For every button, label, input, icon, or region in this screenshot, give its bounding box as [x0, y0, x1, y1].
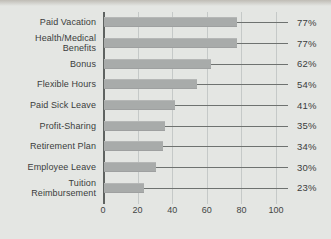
category-label: Paid Vacation: [0, 17, 103, 27]
bar-track: [103, 95, 293, 116]
value-label: 35%: [293, 120, 331, 131]
value-label: 77%: [293, 38, 331, 49]
x-tick-label: 40: [159, 205, 185, 215]
leader-line: [237, 43, 288, 44]
value-label: 23%: [293, 182, 331, 193]
chart-rows: Paid Vacation 77% Health/Medical Benefit…: [0, 12, 331, 198]
bar: [104, 162, 156, 172]
bar: [104, 141, 163, 151]
benefits-bar-chart: Paid Vacation 77% Health/Medical Benefit…: [0, 0, 331, 239]
bar-track: [103, 157, 293, 178]
bar-track: [103, 115, 293, 136]
leader-line: [211, 64, 288, 65]
leader-line: [237, 22, 288, 23]
bar: [104, 121, 165, 131]
leader-line: [144, 188, 288, 189]
bar: [104, 38, 237, 48]
chart-row: Profit-Sharing 35%: [0, 115, 331, 136]
value-label: 62%: [293, 58, 331, 69]
category-label: Flexible Hours: [0, 79, 103, 89]
bar-track: [103, 53, 293, 74]
x-tick-label: 0: [90, 205, 116, 215]
value-label: 34%: [293, 141, 331, 152]
category-label: Profit-Sharing: [0, 121, 103, 131]
x-tick-label: 100: [263, 205, 289, 215]
leader-line: [163, 146, 288, 147]
value-label: 41%: [293, 100, 331, 111]
bar-track: [103, 12, 293, 33]
chart-row: Tuition Reimbursement 23%: [0, 178, 331, 199]
value-label: 77%: [293, 17, 331, 28]
x-tick-label: 80: [228, 205, 254, 215]
category-label: Retirement Plan: [0, 141, 103, 151]
bar-track: [103, 178, 293, 199]
x-tick-label: 60: [194, 205, 220, 215]
category-label: Bonus: [0, 59, 103, 69]
leader-line: [197, 84, 288, 85]
bar-track: [103, 74, 293, 95]
scanned-chart-panel: Paid Vacation 77% Health/Medical Benefit…: [0, 0, 331, 239]
bar: [104, 59, 211, 69]
bar: [104, 183, 144, 193]
leader-line: [175, 105, 288, 106]
leader-line: [156, 167, 288, 168]
value-label: 30%: [293, 162, 331, 173]
chart-row: Bonus 62%: [0, 53, 331, 74]
category-label: Paid Sick Leave: [0, 100, 103, 110]
category-label: Health/Medical Benefits: [0, 33, 103, 53]
value-label: 54%: [293, 79, 331, 90]
leader-line: [165, 126, 288, 127]
chart-row: Employee Leave 30%: [0, 157, 331, 178]
chart-row: Paid Vacation 77%: [0, 12, 331, 33]
bar: [104, 79, 197, 89]
x-tick-label: 20: [125, 205, 151, 215]
category-label: Tuition Reimbursement: [0, 178, 103, 198]
x-axis-tick-labels: 020406080100: [0, 204, 331, 218]
bar: [104, 17, 237, 27]
bar-track: [103, 136, 293, 157]
chart-row: Retirement Plan 34%: [0, 136, 331, 157]
bar-track: [103, 33, 293, 54]
category-label: Employee Leave: [0, 162, 103, 172]
chart-row: Flexible Hours 54%: [0, 74, 331, 95]
bar: [104, 100, 175, 110]
chart-row: Health/Medical Benefits 77%: [0, 33, 331, 54]
chart-row: Paid Sick Leave 41%: [0, 95, 331, 116]
